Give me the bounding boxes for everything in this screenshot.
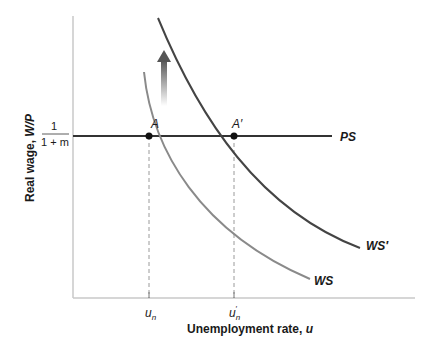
ws-prime-label: WS′ [366,239,389,253]
point-a-prime-label: A′ [231,117,243,131]
ps-label: PS [340,130,356,144]
un-tick-label: un [145,306,157,322]
chart-canvas: A A′ PS WS WS′ 1 1 + m un un′ Unemployme… [0,0,424,358]
y-tick-fraction: 1 1 + m [41,120,69,148]
point-a-prime-marker [231,133,238,140]
ws-curve [144,72,310,279]
ws-prime-curve [158,18,360,248]
y-axis-title: Real wage, W/P [23,113,37,202]
point-a-label: A [150,117,159,131]
ws-label: WS [314,274,333,288]
x-axis-title: Unemployment rate, u [187,322,314,336]
svg-text:1: 1 [51,120,57,132]
point-a-marker [146,133,153,140]
arrow-up-icon [157,50,171,106]
un-prime-tick-label: un′ [229,304,241,322]
svg-text:1 + m: 1 + m [41,136,69,148]
